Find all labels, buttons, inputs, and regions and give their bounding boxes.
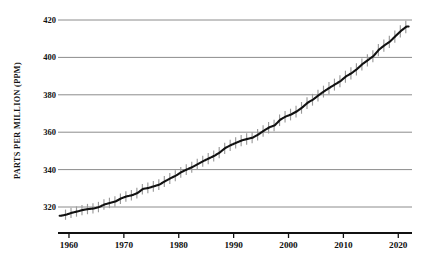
chart-page: PARTS PER MILLION (PPM) 3203403603804004… — [0, 0, 424, 266]
gridlines — [58, 20, 412, 207]
plot-area — [0, 0, 424, 266]
x-axis-line-and-ticks — [58, 233, 412, 238]
seasonal-oscillation-band — [66, 21, 406, 220]
co2-trend-line — [60, 27, 409, 216]
keeling-curve-chart: PARTS PER MILLION (PPM) 3203403603804004… — [0, 0, 424, 266]
